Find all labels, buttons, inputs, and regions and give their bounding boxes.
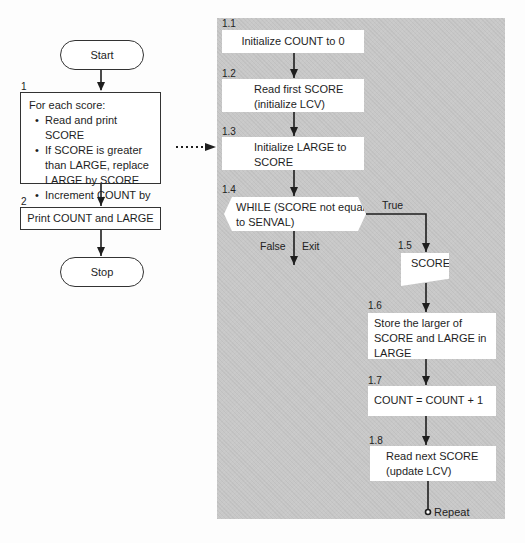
connector-lines — [0, 0, 525, 543]
